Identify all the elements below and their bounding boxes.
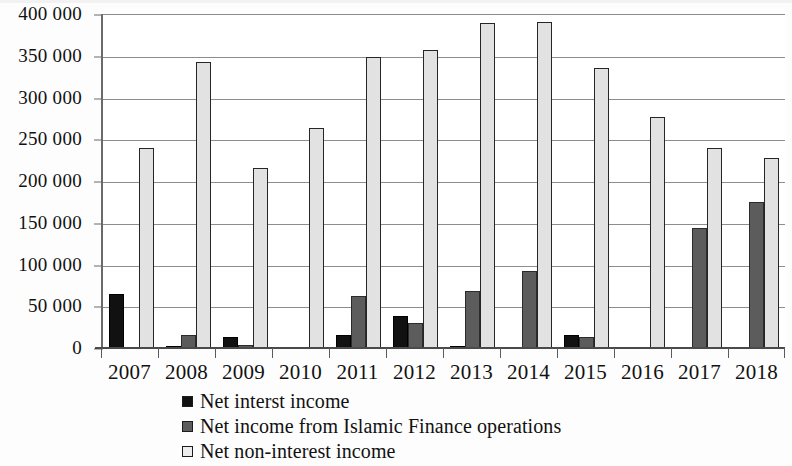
bar-group-2014	[501, 15, 558, 348]
bar-group-2011	[330, 15, 387, 348]
scan-artifact	[0, 0, 792, 3]
legend-label: Net income from Islamic Finance operatio…	[200, 415, 561, 438]
y-tick-mark	[94, 223, 103, 224]
x-tick-mark	[215, 348, 216, 358]
chart-legend: Net interst income Net income from Islam…	[182, 389, 782, 464]
x-axis-labels: 2007200820092010201120122013201420152016…	[101, 360, 785, 390]
x-tick-mark	[272, 348, 273, 358]
bar-2014-series-2	[537, 22, 552, 348]
x-tick-cell-2017	[671, 348, 728, 358]
y-tick-mark	[94, 307, 103, 308]
black-square-icon	[182, 396, 193, 407]
bar-group-2015	[558, 15, 615, 348]
y-tick-label: 100 000	[18, 254, 82, 276]
bar-2011-series-1	[351, 296, 366, 348]
y-tick-label: 0	[72, 337, 82, 359]
bar-2014-series-1	[522, 271, 537, 348]
y-tick-mark	[94, 98, 103, 99]
x-tick-label-2011: 2011	[329, 360, 386, 390]
chart-page: 050 000100 000150 000200 000250 000300 0…	[0, 0, 792, 466]
bars-layer	[103, 15, 785, 348]
light-grey-square-icon	[182, 446, 193, 457]
x-tick-label-2017: 2017	[671, 360, 728, 390]
y-tick-label: 250 000	[18, 128, 82, 150]
bar-2015-series-0	[564, 335, 579, 348]
x-tick-mark	[728, 348, 729, 358]
legend-label: Net interst income	[200, 390, 350, 413]
y-tick-mark	[94, 182, 103, 183]
y-tick-mark	[94, 56, 103, 57]
y-tick-mark	[94, 140, 103, 141]
bar-2012-series-2	[423, 50, 438, 348]
x-tick-mark	[500, 348, 501, 358]
x-tick-cell-2016	[614, 348, 671, 358]
bar-group-2012	[387, 15, 444, 348]
plot-area	[101, 14, 785, 348]
x-tick-label-2018: 2018	[728, 360, 785, 390]
x-tick-mark	[386, 348, 387, 358]
legend-item-net-interest-income: Net interst income	[182, 389, 782, 414]
bar-group-2017	[671, 15, 728, 348]
bar-group-2007	[103, 15, 160, 348]
x-tick-mark	[158, 348, 159, 358]
x-tick-label-2015: 2015	[557, 360, 614, 390]
bar-2008-series-2	[196, 62, 211, 348]
x-tick-mark	[329, 348, 330, 358]
x-tick-mark	[671, 348, 672, 358]
legend-item-islamic-finance: Net income from Islamic Finance operatio…	[182, 414, 782, 439]
y-tick-label: 50 000	[28, 295, 82, 317]
bar-2013-series-1	[465, 291, 480, 348]
x-tick-label-2016: 2016	[614, 360, 671, 390]
x-tick-cell-2015	[557, 348, 614, 358]
x-tick-cell-2011	[329, 348, 386, 358]
bar-2011-series-2	[366, 57, 381, 348]
y-tick-mark	[94, 15, 103, 16]
y-tick-label: 350 000	[18, 45, 82, 67]
bar-2009-series-2	[253, 168, 268, 348]
x-tick-label-2014: 2014	[500, 360, 557, 390]
legend-item-non-interest-income: Net non-interest income	[182, 439, 782, 464]
x-tick-cell-2013	[443, 348, 500, 358]
bar-2015-series-2	[594, 68, 609, 348]
x-tick-label-2009: 2009	[215, 360, 272, 390]
x-tick-cell-2009	[215, 348, 272, 358]
x-tick-cell-2018	[728, 348, 785, 358]
x-tick-cell-2008	[158, 348, 215, 358]
bar-2016-series-2	[650, 117, 665, 348]
bar-2007-series-0	[109, 294, 124, 348]
bar-group-2016	[614, 15, 671, 348]
x-axis-tick-marks	[101, 348, 785, 358]
bar-group-2010	[273, 15, 330, 348]
bar-group-2008	[160, 15, 217, 348]
x-tick-mark	[784, 348, 785, 358]
y-tick-label: 150 000	[18, 212, 82, 234]
x-tick-label-2010: 2010	[272, 360, 329, 390]
x-tick-mark	[101, 348, 102, 358]
y-axis: 050 000100 000150 000200 000250 000300 0…	[0, 0, 86, 356]
x-tick-mark	[614, 348, 615, 358]
bar-2017-series-2	[707, 148, 722, 348]
bar-2012-series-1	[408, 323, 423, 348]
y-tick-label: 300 000	[18, 87, 82, 109]
x-tick-label-2007: 2007	[101, 360, 158, 390]
bar-group-2013	[444, 15, 501, 348]
bar-2012-series-0	[393, 316, 408, 348]
y-tick-label: 200 000	[18, 170, 82, 192]
bar-2010-series-2	[309, 128, 324, 348]
x-tick-mark	[443, 348, 444, 358]
x-tick-cell-2007	[101, 348, 158, 358]
y-tick-label: 400 000	[18, 3, 82, 25]
dark-grey-square-icon	[182, 421, 193, 432]
bar-2018-series-1	[749, 202, 764, 348]
bar-2013-series-2	[480, 23, 495, 348]
x-tick-mark	[557, 348, 558, 358]
bar-2017-series-1	[692, 228, 707, 348]
x-tick-cell-2010	[272, 348, 329, 358]
x-tick-cell-2014	[500, 348, 557, 358]
bar-2007-series-2	[139, 148, 154, 348]
x-tick-cell-2012	[386, 348, 443, 358]
x-tick-label-2012: 2012	[386, 360, 443, 390]
y-tick-mark	[94, 265, 103, 266]
bar-group-2009	[217, 15, 274, 348]
x-tick-label-2013: 2013	[443, 360, 500, 390]
